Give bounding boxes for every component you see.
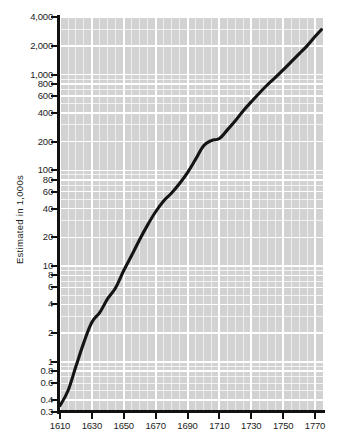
y-axis-tick: [51, 236, 57, 238]
y-axis-tick: [51, 286, 57, 288]
y-axis-tick: [51, 169, 57, 171]
y-axis-tick: [51, 411, 57, 413]
y-axis-tick: [51, 208, 57, 210]
y-axis-tick: [51, 83, 57, 85]
y-axis-labels: 4,0002,0001,0008006004002001008060402010…: [0, 0, 340, 444]
x-axis-tick-label: 1690: [177, 420, 197, 431]
y-axis-tick: [51, 141, 57, 143]
x-axis-tick: [250, 413, 252, 419]
y-axis-tick-label: 2,000: [30, 41, 53, 51]
x-axis-tick: [91, 413, 93, 419]
y-axis-tick: [51, 95, 57, 97]
x-axis-tick: [59, 413, 61, 419]
chart-root: Estimated in 1,000s 4,0002,0001,00080060…: [0, 0, 340, 444]
x-axis-tick-label: 1770: [305, 420, 325, 431]
y-axis-tick: [51, 361, 57, 363]
y-axis-tick: [51, 332, 57, 334]
y-axis-tick: [51, 74, 57, 76]
x-axis-tick-label: 1710: [209, 420, 229, 431]
y-axis-tick: [51, 399, 57, 401]
x-axis-tick-label: 1750: [273, 420, 293, 431]
x-axis-tick-label: 1730: [241, 420, 261, 431]
y-axis-tick: [51, 303, 57, 305]
y-axis-tick: [51, 112, 57, 114]
y-axis-tick: [51, 45, 57, 47]
y-axis-tick: [51, 191, 57, 193]
y-axis-tick: [51, 274, 57, 276]
y-axis-tick-label: 4,000: [30, 12, 53, 22]
y-axis-tick: [51, 370, 57, 372]
y-axis-tick: [51, 265, 57, 267]
x-axis-tick: [314, 413, 316, 419]
y-axis-tick: [51, 382, 57, 384]
x-axis-tick-label: 1670: [145, 420, 165, 431]
x-axis-tick: [282, 413, 284, 419]
x-axis-tick: [123, 413, 125, 419]
x-axis-tick: [218, 413, 220, 419]
y-axis-tick: [51, 179, 57, 181]
x-axis-tick-label: 1610: [50, 420, 70, 431]
x-axis-tick: [155, 413, 157, 419]
x-axis-tick-label: 1630: [82, 420, 102, 431]
x-axis-tick: [187, 413, 189, 419]
x-axis-tick-label: 1650: [114, 420, 134, 431]
y-axis-tick: [51, 16, 57, 18]
